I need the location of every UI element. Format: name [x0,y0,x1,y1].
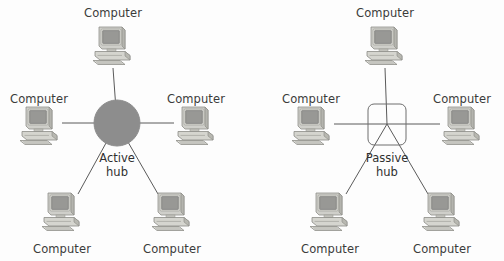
computer-label: Computer [356,6,414,20]
computer-label: Computer [282,92,340,106]
computer-label: Computer [433,92,491,106]
network-topology-figure: Activehub Computer [0,0,504,261]
active-hub-label: Activehub [99,152,135,179]
passive-hub-shape [368,104,406,145]
desktop-computer-icon [89,24,137,68]
desktop-computer-icon [288,104,336,148]
computer-label: Computer [143,242,201,256]
hub-label-line-2: hub [366,166,409,180]
hub-label-line-1: Passive [366,152,409,166]
desktop-computer-icon [148,190,196,234]
computer-label: Computer [301,242,359,256]
desktop-computer-icon [306,190,354,234]
passive-hub-label: Passivehub [366,152,409,179]
desktop-computer-icon [172,104,220,148]
active-hub-shape [94,100,140,146]
computer-label: Computer [84,6,142,20]
hub-label-line-1: Active [99,152,135,166]
desktop-computer-icon [38,190,86,234]
computer-label: Computer [10,92,68,106]
computer-label: Computer [413,242,471,256]
desktop-computer-icon [418,190,466,234]
hub-label-line-2: hub [99,166,135,180]
desktop-computer-icon [16,104,64,148]
computer-label: Computer [167,92,225,106]
desktop-computer-icon [438,104,486,148]
computer-label: Computer [33,242,91,256]
desktop-computer-icon [361,24,409,68]
